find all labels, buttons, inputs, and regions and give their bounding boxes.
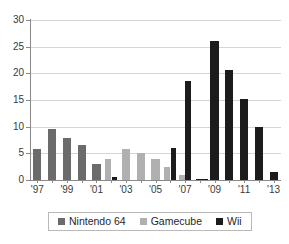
- x-axis-tick-label: '13: [262, 184, 286, 196]
- bar-slot: [60, 20, 75, 180]
- bar-slot: [119, 20, 134, 180]
- bar-chart: 051015202530 '97'99'01'03'05'07'09'11'13…: [0, 0, 289, 244]
- bar-slot: [237, 20, 252, 180]
- y-axis-tick-mark: [26, 127, 30, 128]
- y-axis-tick-mark: [26, 47, 30, 48]
- bar: [255, 127, 263, 180]
- bar: [225, 70, 233, 180]
- y-axis-line: [30, 19, 31, 181]
- bar-slot: [178, 20, 193, 180]
- bar-slot: [133, 20, 148, 180]
- y-axis-tick-mark: [26, 73, 30, 74]
- bar-slot: [192, 20, 207, 180]
- legend-item[interactable]: Gamecube: [140, 216, 202, 227]
- y-axis-tick-label: 20: [2, 68, 24, 78]
- x-axis-tick-label: '05: [144, 184, 168, 196]
- bar: [48, 129, 56, 180]
- bar: [105, 159, 111, 180]
- bar-slot: [207, 20, 222, 180]
- y-axis-tick-mark: [26, 153, 30, 154]
- x-axis-tick-label: '09: [203, 184, 227, 196]
- bar-slot: [222, 20, 237, 180]
- bar: [171, 148, 177, 180]
- bar-slot: [45, 20, 60, 180]
- x-axis-tick-label: '99: [55, 184, 79, 196]
- x-axis-tick-label: '01: [84, 184, 108, 196]
- bar: [122, 149, 130, 180]
- x-axis-tick-label: '97: [25, 184, 49, 196]
- x-axis-tick-label: '07: [173, 184, 197, 196]
- legend-swatch-icon: [216, 218, 223, 225]
- bar: [33, 149, 41, 180]
- y-axis-tick-label: 0: [2, 175, 24, 185]
- legend-label: Nintendo 64: [69, 216, 126, 227]
- bar-slot: [30, 20, 45, 180]
- y-axis-labels: 051015202530: [0, 0, 24, 244]
- plot-area: [30, 20, 281, 180]
- legend-swatch-icon: [140, 218, 147, 225]
- legend-label: Gamecube: [151, 216, 202, 227]
- y-axis-tick-mark: [26, 180, 30, 181]
- y-axis-tick-label: 10: [2, 122, 24, 132]
- bars-layer: [30, 20, 281, 180]
- bar-slot: [163, 20, 178, 180]
- bar: [164, 167, 170, 180]
- chart-legend: Nintendo 64GamecubeWii: [48, 212, 252, 231]
- bar: [78, 145, 86, 180]
- legend-label: Wii: [227, 216, 242, 227]
- y-axis-tick-mark: [26, 20, 30, 21]
- x-axis-tick-label: '11: [232, 184, 256, 196]
- y-axis-tick-label: 5: [2, 148, 24, 158]
- y-axis-tick-label: 15: [2, 95, 24, 105]
- bar-slot: [251, 20, 266, 180]
- x-axis-tick-label: '03: [114, 184, 138, 196]
- bar-slot: [266, 20, 281, 180]
- y-axis-tick-label: 25: [2, 42, 24, 52]
- bar-slot: [148, 20, 163, 180]
- bar: [92, 164, 100, 180]
- x-axis-labels: '97'99'01'03'05'07'09'11'13: [30, 183, 281, 199]
- y-axis-tick-label: 30: [2, 15, 24, 25]
- bar-slot: [74, 20, 89, 180]
- bar: [137, 153, 145, 180]
- legend-item[interactable]: Nintendo 64: [58, 216, 126, 227]
- bar-slot: [89, 20, 104, 180]
- bar: [185, 81, 191, 180]
- bar: [63, 138, 71, 180]
- y-axis-tick-mark: [26, 100, 30, 101]
- legend-swatch-icon: [58, 218, 65, 225]
- bar: [151, 159, 159, 180]
- bar: [270, 172, 278, 180]
- bar-slot: [104, 20, 119, 180]
- legend-item[interactable]: Wii: [216, 216, 242, 227]
- bar: [210, 41, 218, 180]
- bar: [240, 99, 248, 180]
